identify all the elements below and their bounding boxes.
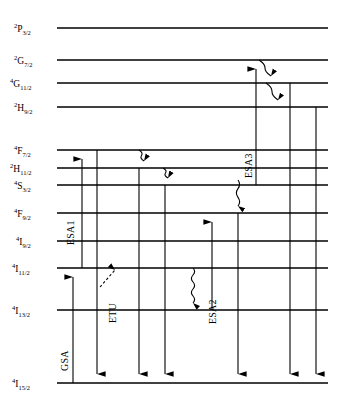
j-value: 9/2 [23, 214, 31, 221]
process-label-esa1: ESA1 [65, 220, 76, 245]
level-label-2G7/2: 2G7/2 [14, 55, 32, 69]
level-label-4I15/2: 4I15/2 [12, 378, 30, 392]
emission-arrows [97, 83, 316, 374]
process-label-esa3: ESA3 [243, 153, 254, 178]
process-label-gsa: GSA [59, 350, 70, 371]
decay-4f7-to-2h11 [139, 150, 144, 161]
j-value: 11/2 [20, 84, 31, 91]
level-label-4I9/2: 4I9/2 [16, 236, 31, 250]
level-lines [57, 28, 328, 383]
j-value: 9/2 [22, 242, 30, 249]
decay-4s3-to-4f9 [236, 180, 239, 206]
level-label-4F7/2: 4F7/2 [14, 145, 31, 159]
level-label-4S3/2: 4S3/2 [14, 180, 31, 194]
j-value: 11/2 [18, 269, 29, 276]
j-value: 7/2 [24, 61, 32, 68]
j-value: 3/2 [23, 29, 31, 36]
level-label-2P3/2: 2P3/2 [14, 23, 31, 37]
etu-arrow [100, 270, 115, 287]
decay-4g11-to-2h9 [266, 83, 278, 100]
level-label-2H9/2: 2H9/2 [14, 102, 32, 116]
diagram-canvas [0, 0, 345, 412]
level-label-2H11/2: 2H11/2 [10, 163, 31, 177]
j-value: 11/2 [20, 169, 31, 176]
nonradiative-decay-arrows [139, 60, 278, 303]
level-label-4G11/2: 4G11/2 [10, 78, 31, 92]
decay-4i11-to-4i13 [191, 268, 194, 303]
level-label-4F9/2: 4F9/2 [14, 208, 31, 222]
j-value: 9/2 [24, 108, 32, 115]
level-label-4I11/2: 4I11/2 [12, 263, 30, 277]
j-value: 13/2 [18, 311, 30, 318]
process-label-etu: ETU [107, 303, 118, 323]
j-value: 7/2 [23, 151, 31, 158]
process-label-esa2: ESA2 [207, 299, 218, 324]
decay-2h11-to-4s3 [163, 168, 168, 178]
decay-2g7-to-4g11 [259, 60, 271, 76]
j-value: 3/2 [23, 186, 31, 193]
energy-level-diagram: 2P3/22G7/24G11/22H9/24F7/22H11/24S3/24F9… [0, 0, 345, 412]
level-label-4I13/2: 4I13/2 [12, 305, 30, 319]
j-value: 15/2 [18, 384, 30, 391]
